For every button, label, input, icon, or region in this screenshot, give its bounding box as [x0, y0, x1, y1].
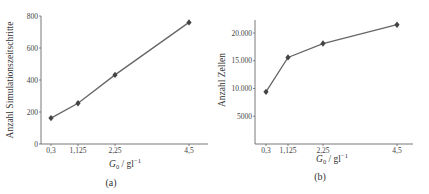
- data-point-marker: [48, 115, 53, 121]
- y-tick-label: 400: [27, 76, 39, 85]
- y-tick-label: 10.000: [231, 84, 252, 93]
- data-point-marker: [112, 72, 117, 78]
- chart-b: 500010.00015.00020.000 0,31,1252,254,5 A…: [217, 20, 413, 183]
- x-tick-label: 2,25: [108, 146, 121, 155]
- x-axis-label-a: G0 / gl−1: [109, 157, 141, 170]
- x-tick-label: 1,125: [70, 146, 87, 155]
- chart-a: 0200400600800 0,31,1252,254,5 Anzahl Sim…: [5, 12, 208, 190]
- x-tick-label: 1,125: [280, 146, 297, 155]
- x-ticks-a: 0,31,1252,254,5: [46, 144, 194, 155]
- y-axis-label-a: Anzahl Simulationszeitschritte: [5, 22, 15, 139]
- y-ticks-b: 500010.00015.00020.000: [231, 29, 255, 121]
- panel-caption-b: (b): [314, 171, 326, 183]
- y-tick-label: 20.000: [231, 29, 252, 38]
- x-tick-label: 4,5: [184, 146, 194, 155]
- panel-caption-a: (a): [105, 177, 116, 189]
- data-line-a: [51, 22, 189, 118]
- markers-a: [48, 19, 191, 121]
- x-axis-label-b: G0 / gl−1: [316, 152, 348, 165]
- x-tick-label: 4,5: [392, 146, 402, 155]
- x-tick-label: 0,3: [261, 146, 271, 155]
- y-tick-label: 0: [34, 140, 38, 149]
- y-ticks-a: 0200400600800: [27, 12, 41, 149]
- y-tick-label: 5000: [237, 112, 252, 121]
- y-tick-label: 15.000: [231, 56, 252, 65]
- data-point-marker: [320, 40, 325, 46]
- figure: 0200400600800 0,31,1252,254,5 Anzahl Sim…: [0, 0, 429, 194]
- y-tick-label: 600: [27, 44, 39, 53]
- y-tick-label: 200: [27, 108, 39, 117]
- data-point-marker: [186, 19, 191, 25]
- markers-b: [263, 21, 399, 95]
- y-tick-label: 800: [27, 12, 39, 21]
- data-point-marker: [75, 100, 80, 106]
- data-point-marker: [394, 21, 399, 27]
- x-tick-label: 0,3: [46, 146, 56, 155]
- y-axis-label-b: Anzahl Zellen: [217, 53, 227, 107]
- data-line-b: [266, 25, 397, 92]
